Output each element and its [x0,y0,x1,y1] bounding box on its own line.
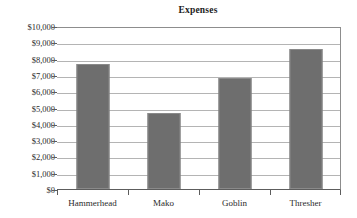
y-axis-tick-label: $2,000 [2,153,55,162]
plot-area [57,27,341,190]
y-axis-tick-label: $5,000 [2,104,55,113]
x-axis-ticks [57,190,341,196]
expenses-bar-chart: Expenses $10,000$9,000$8,000$7,000$6,000… [0,0,357,218]
y-axis-tick-label: $3,000 [2,137,55,146]
bar-slot [57,28,128,189]
x-axis-tick-mark [57,190,58,195]
x-axis-tick-mark [270,190,271,195]
bar-slot [199,28,270,189]
bar-slot [270,28,341,189]
bar-series [57,28,340,189]
bar-slot [128,28,199,189]
y-axis-tick-label: $10,000 [2,23,55,32]
bar[interactable] [218,78,251,189]
y-axis-tick-label: $6,000 [2,88,55,97]
bar[interactable] [76,64,109,189]
x-axis-category-label: Thresher [270,197,341,209]
bar[interactable] [147,113,180,189]
y-axis-tick-label: $9,000 [2,39,55,48]
chart-title: Expenses [55,5,341,15]
y-axis-tick-label: $8,000 [2,55,55,64]
x-axis-tick-mark [128,190,129,195]
y-axis-tick-label: $4,000 [2,120,55,129]
x-axis-category-label: Mako [128,197,199,209]
y-axis-tick-label: $1,000 [2,169,55,178]
y-axis-tick-label: $7,000 [2,71,55,80]
bar[interactable] [289,49,322,189]
y-axis-tick-label: $0 [2,186,55,195]
x-axis-category-label: Hammerhead [57,197,128,209]
x-axis-tick-mark [340,190,341,195]
x-axis-tick-mark [199,190,200,195]
y-axis-labels: $10,000$9,000$8,000$7,000$6,000$5,000$4,… [0,0,55,218]
x-axis-labels: HammerheadMakoGoblinThresher [57,197,341,215]
x-axis-category-label: Goblin [199,197,270,209]
